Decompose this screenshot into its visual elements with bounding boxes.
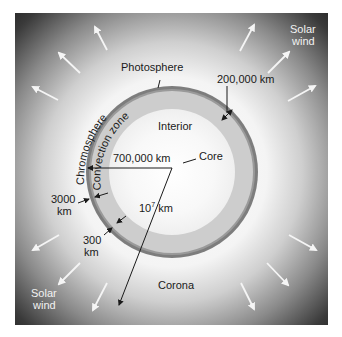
photosphere-label: Photosphere	[121, 61, 183, 73]
chromosphere-thickness-unit: km	[57, 205, 72, 217]
photosphere-pointer	[158, 80, 160, 88]
corona-extent-label: 107 km	[139, 201, 173, 214]
chromosphere-thickness-value: 3000	[51, 193, 75, 205]
wind-arrow-icon	[241, 283, 254, 309]
interior-label: Interior	[158, 120, 193, 132]
convection-depth-label: 200,000 km	[217, 73, 274, 85]
wind-arrow-icon	[59, 263, 80, 284]
chromosphere-thickness-pointer	[78, 199, 89, 203]
corona-label: Corona	[158, 279, 195, 291]
core-label: Core	[199, 150, 223, 162]
photosphere-thickness-unit: km	[84, 246, 99, 258]
wind-arrow-icon	[240, 25, 254, 51]
solar-wind-label-bottom-left-2: wind	[32, 299, 56, 311]
solar-wind-label-top-right-2: wind	[291, 35, 315, 47]
wind-arrow-icon	[33, 235, 59, 250]
wind-arrow-icon	[93, 283, 107, 310]
wind-arrow-icon	[95, 27, 107, 50]
solar-wind-label-bottom-left-1: Solar	[31, 287, 57, 299]
wind-arrow-icon	[59, 53, 80, 73]
sun-diagram: Chromosphere Convection zone Photosphere…	[0, 0, 342, 337]
wind-arrow-icon	[33, 87, 58, 100]
radius-label: 700,000 km	[113, 152, 170, 164]
wind-arrow-icon	[267, 263, 288, 285]
solar-wind-label-top-right-1: Solar	[290, 23, 316, 35]
photosphere-thickness-value: 300	[83, 234, 101, 246]
sun-body	[86, 86, 258, 258]
wind-arrow-icon	[288, 86, 315, 101]
wind-arrow-icon	[268, 52, 289, 73]
wind-arrow-icon	[289, 235, 316, 250]
